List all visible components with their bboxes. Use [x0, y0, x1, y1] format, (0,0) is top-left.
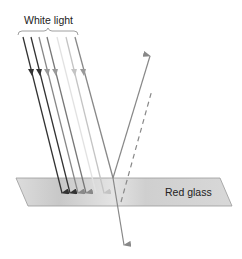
- reflected-ray: [113, 56, 150, 178]
- diagram-canvas: [0, 0, 242, 259]
- white-light-label: White light: [24, 14, 73, 26]
- incident-rays: [23, 37, 113, 193]
- white-light-bracket: [18, 28, 78, 35]
- red-glass-label: Red glass: [165, 186, 212, 198]
